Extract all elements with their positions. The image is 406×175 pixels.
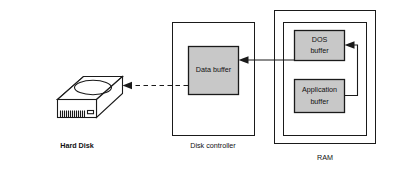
ram-label: RAM <box>317 153 333 162</box>
arrowhead-to-dos-buffer <box>345 41 355 49</box>
dos-buffer-label-line1: DOS <box>312 35 328 44</box>
hard-disk-vent-fins-icon <box>61 111 85 118</box>
edge-dos-buffer-to-data-buffer <box>239 56 295 64</box>
edge-application-buffer-to-dos-buffer <box>345 41 358 95</box>
arrowhead-to-data-buffer <box>239 56 249 64</box>
disk-controller-label: Disk controller <box>190 141 236 150</box>
hard-disk-label: Hard Disk <box>60 141 94 150</box>
application-buffer-label-line2: buffer <box>310 97 329 106</box>
data-buffer-label: Data buffer <box>196 65 232 74</box>
hard-disk-drive-icon <box>58 77 123 118</box>
edge-data-buffer-to-hard-disk <box>123 82 189 89</box>
arrowhead-to-hard-disk <box>123 82 133 89</box>
dos-buffer-label-line2: buffer <box>310 46 329 55</box>
application-buffer-label-line1: Application <box>302 85 337 94</box>
diagram-canvas: Hard Disk Disk controller Data buffer RA… <box>0 0 406 175</box>
disk-buffering-diagram: Hard Disk Disk controller Data buffer RA… <box>0 0 406 175</box>
